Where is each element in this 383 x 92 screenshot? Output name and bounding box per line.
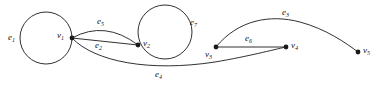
multigraph-figure: v1 v2 v3 v4 v5 e1 e7 e5 e2 e4 e6 e3 xyxy=(0,0,383,92)
edge-e1-loop xyxy=(20,12,72,64)
vertex-label-v3: v3 xyxy=(205,50,212,59)
edge-label-e4: e4 xyxy=(155,70,162,79)
edge-label-e5: e5 xyxy=(97,17,104,26)
vertex-v4-dot xyxy=(284,45,289,50)
edge-e5-arc xyxy=(72,30,138,45)
vertex-label-v4: v4 xyxy=(291,41,298,50)
graph-canvas xyxy=(0,0,383,92)
vertex-label-v2: v2 xyxy=(143,39,150,48)
vertex-v1-dot xyxy=(70,36,75,41)
vertex-v5-dot xyxy=(356,50,361,55)
edge-e4-arc xyxy=(72,38,286,66)
vertex-label-v1: v1 xyxy=(57,31,64,40)
edge-e2-line xyxy=(72,38,138,45)
edge-e7-loop xyxy=(138,5,192,59)
vertex-label-v5: v5 xyxy=(363,46,370,55)
edge-label-e6: e6 xyxy=(245,34,252,43)
vertex-v2-dot xyxy=(136,43,141,48)
edge-label-e1: e1 xyxy=(8,33,15,42)
edge-label-e3: e3 xyxy=(282,8,289,17)
edge-label-e7: e7 xyxy=(190,18,197,27)
vertex-v3-dot xyxy=(214,45,219,50)
edge-label-e2: e2 xyxy=(95,41,102,50)
